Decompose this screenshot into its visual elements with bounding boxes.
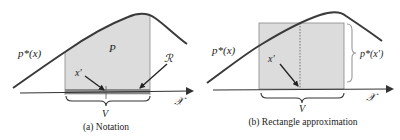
space-label: 𝒳 — [174, 95, 187, 107]
volume-label: V — [299, 103, 307, 114]
caption-a: (a) Notation — [83, 122, 129, 133]
mass-label: P — [108, 42, 116, 54]
caption-b: (b) Rectangle approximation — [248, 117, 357, 128]
figure: p*(x) P x′ ℛ V 𝒳 (a) Notation p*(x) x′ p… — [0, 0, 400, 140]
height-brace — [347, 24, 356, 82]
density-label: p*(x) — [211, 44, 236, 57]
point-label: x′ — [74, 67, 82, 78]
point-label: x′ — [267, 53, 275, 64]
height-label: p*(x′) — [359, 48, 384, 60]
panel-a: p*(x) P x′ ℛ V 𝒳 (a) Notation — [13, 14, 192, 133]
volume-label: V — [102, 108, 110, 119]
volume-brace — [66, 96, 150, 106]
space-label: 𝒳 — [366, 91, 379, 103]
volume-brace — [261, 93, 344, 103]
panel-b: p*(x) x′ p*(x′) V 𝒳 (b) Rectangle approx… — [207, 12, 392, 128]
region-label: ℛ — [164, 52, 174, 64]
x-axis — [213, 89, 392, 90]
density-label: p*(x) — [17, 47, 42, 60]
